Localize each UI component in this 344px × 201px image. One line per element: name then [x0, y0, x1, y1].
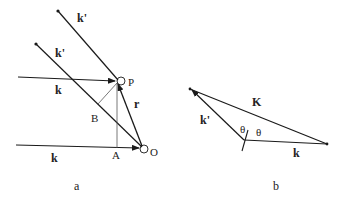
label-k-prime: k': [200, 113, 210, 127]
k-vector: [244, 140, 327, 144]
label-k-upper: k: [55, 83, 62, 97]
panel-b: K k' θ θ k b: [189, 88, 329, 193]
scattering-diagram: k' k' P k B r k A O a K k' θ θ k b: [0, 0, 344, 201]
caption-a: a: [74, 179, 80, 193]
panel-a: k' k' P k B r k A O a: [16, 11, 158, 193]
label-k-lower: k: [51, 151, 58, 165]
label-P: P: [128, 76, 134, 88]
label-A: A: [112, 149, 120, 161]
label-B: B: [91, 112, 98, 124]
label-O: O: [150, 146, 158, 158]
label-r: r: [134, 97, 140, 111]
label-k: k: [293, 146, 300, 160]
k-lower-ray: [16, 145, 139, 148]
point-P-marker: [117, 77, 125, 85]
label-k-prime-upper: k': [77, 11, 87, 25]
vertex-right: [326, 143, 329, 146]
k-prime-lower-ray: [36, 44, 142, 147]
label-k-prime-lower: k': [55, 46, 65, 60]
vertex-left: [189, 88, 192, 91]
r-vector: [118, 84, 142, 146]
label-theta-1: θ: [240, 123, 245, 135]
perpendicular-PB: [98, 83, 117, 104]
k-upper-ray: [18, 77, 115, 81]
label-theta-2: θ: [256, 126, 261, 138]
k-prime-upper-ray: [58, 11, 118, 80]
label-K: K: [252, 95, 262, 109]
caption-b: b: [273, 179, 279, 193]
point-O-marker: [140, 145, 148, 153]
